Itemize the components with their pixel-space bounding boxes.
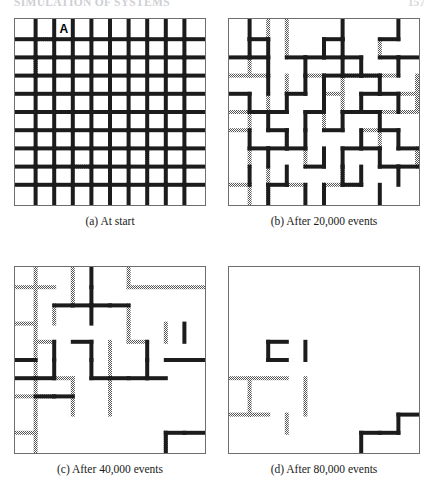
caption-panel-b: (b) After 20,000 events xyxy=(224,215,424,227)
running-head-title: SIMULATION OF SYSTEMS xyxy=(14,0,170,8)
caption-panel-d: (d) After 80,000 events xyxy=(224,463,424,475)
figure-panel-b xyxy=(228,18,420,206)
cell-label-a: A xyxy=(60,23,69,35)
running-head-page-number: 157 xyxy=(408,0,425,8)
panel-a-lattice xyxy=(14,18,206,206)
caption-panel-a: (a) At start xyxy=(10,215,210,227)
running-head: SIMULATION OF SYSTEMS 157 xyxy=(0,0,435,12)
panel-d-lattice xyxy=(228,266,420,454)
panel-c-lattice xyxy=(14,266,206,454)
figure-panel-a: A xyxy=(14,18,206,206)
figure-panel-d xyxy=(228,266,420,454)
panel-b-lattice xyxy=(228,18,420,206)
figure-panel-c xyxy=(14,266,206,454)
caption-panel-c: (c) After 40,000 events xyxy=(10,463,210,475)
